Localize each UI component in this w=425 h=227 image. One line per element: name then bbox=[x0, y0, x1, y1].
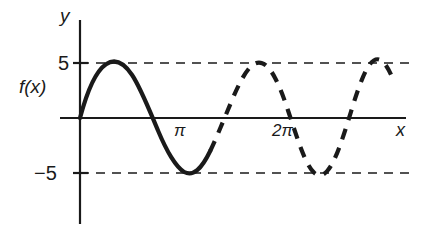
x-tick-label-pi: π bbox=[174, 122, 185, 139]
x-tick-label-2pi: 2π bbox=[272, 122, 293, 139]
y-tick-label-5: 5 bbox=[58, 53, 69, 73]
x-axis-label: x bbox=[396, 121, 405, 139]
y-axis-label: y bbox=[60, 6, 70, 25]
plot-canvas bbox=[0, 0, 425, 227]
function-label: f(x) bbox=[19, 77, 46, 96]
y-tick-label-minus-5: −5 bbox=[34, 163, 57, 183]
sine-wave-figure: y x f(x) 5 −5 π 2π bbox=[0, 0, 425, 227]
